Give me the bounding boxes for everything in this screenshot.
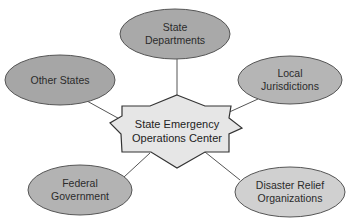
connector-disaster-relief	[205, 152, 240, 180]
label-line: State	[145, 21, 205, 34]
label-line: Departments	[145, 34, 205, 47]
label-line: State Emergency	[132, 117, 222, 131]
label-line: Jurisdictions	[261, 80, 319, 93]
label-line: Organizations	[256, 192, 324, 205]
label-line: Operations Center	[132, 131, 222, 145]
connector-federal-government	[124, 153, 150, 177]
label-line: Federal	[51, 177, 109, 190]
label-line: Government	[51, 190, 109, 203]
label-state-departments: State Departments	[145, 21, 205, 47]
label-disaster-relief-organizations: Disaster Relief Organizations	[256, 179, 324, 205]
label-line: Disaster Relief	[256, 179, 324, 192]
label-federal-government: Federal Government	[51, 177, 109, 203]
label-local-jurisdictions: Local Jurisdictions	[261, 67, 319, 93]
label-center-seoc: State Emergency Operations Center	[132, 117, 222, 145]
hub-spoke-diagram: State Departments Other States Local Jur…	[0, 0, 350, 224]
label-line: Local	[261, 67, 319, 80]
label-line: Other States	[31, 74, 90, 87]
label-other-states: Other States	[31, 74, 90, 87]
